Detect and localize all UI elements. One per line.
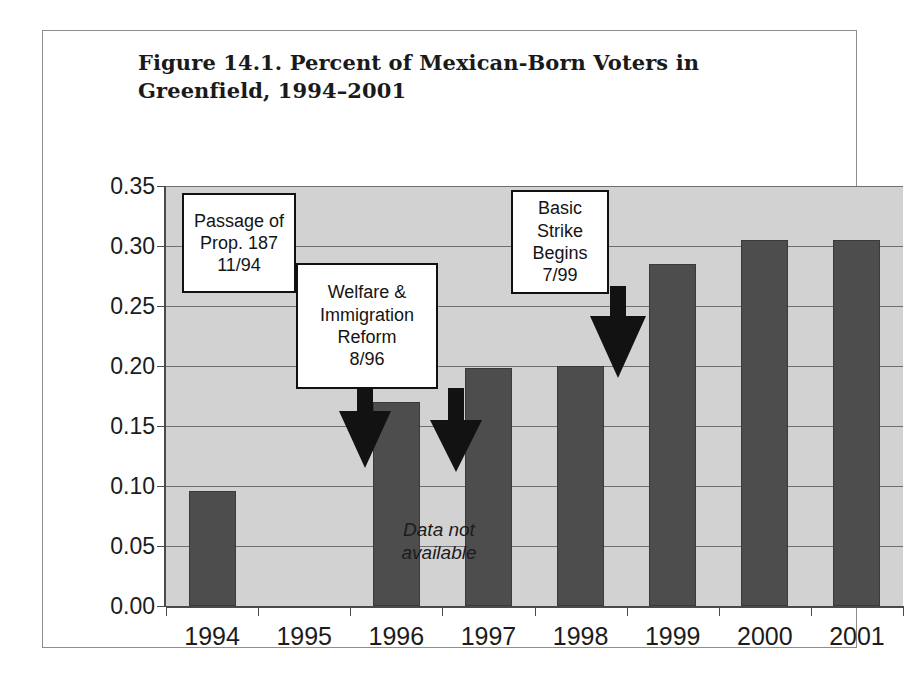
gridline (166, 186, 903, 187)
gridline (166, 606, 903, 607)
bar-1998 (557, 366, 604, 606)
figure-title-line-1: Figure 14.1. Percent of Mexican-Born Vot… (138, 49, 778, 77)
x-tick-mark (535, 606, 536, 616)
figure-title: Figure 14.1. Percent of Mexican-Born Vot… (138, 49, 778, 106)
data-not-available-line-2: available (364, 541, 514, 564)
y-tick-label: 0.10 (110, 473, 155, 500)
y-tick-mark (157, 606, 166, 607)
x-tick-label-1994: 1994 (184, 622, 240, 651)
annotation-box-basic-strike-text: Basic Strike Begins 7/99 (532, 197, 587, 286)
annotation-line: Welfare & (320, 281, 414, 303)
annotation-box-prop-187[interactable]: Passage of Prop. 187 11/94 (182, 193, 296, 293)
y-tick-mark (157, 426, 166, 427)
x-tick-mark (811, 606, 812, 616)
x-tick-mark (258, 606, 259, 616)
x-tick-label-1998: 1998 (553, 622, 609, 651)
x-tick-label-2001: 2001 (829, 622, 885, 651)
y-tick-label: 0.15 (110, 413, 155, 440)
annotation-line: Reform (320, 326, 414, 348)
y-tick-label: 0.30 (110, 233, 155, 260)
annotation-line: Prop. 187 (194, 232, 284, 254)
figure-title-line-2: Greenfield, 1994–2001 (138, 77, 778, 105)
annotation-line: Passage of (194, 210, 284, 232)
gridline (166, 306, 903, 307)
y-tick-mark (157, 546, 166, 547)
annotation-arrow-basic-strike (581, 286, 655, 386)
annotation-line: 11/94 (194, 254, 284, 276)
y-tick-label: 0.05 (110, 533, 155, 560)
annotation-line: Basic (532, 197, 587, 219)
bar-1994 (189, 491, 236, 606)
x-tick-label-2000: 2000 (737, 622, 793, 651)
x-tick-mark (166, 606, 167, 616)
bar-1999 (649, 264, 696, 606)
annotation-line: 8/96 (320, 348, 414, 370)
x-tick-mark (350, 606, 351, 616)
gridline (166, 426, 903, 427)
gridline (166, 546, 903, 547)
y-tick-mark (157, 306, 166, 307)
annotation-line: Begins (532, 242, 587, 264)
annotation-box-prop-187-text: Passage of Prop. 187 11/94 (194, 210, 284, 277)
data-not-available-line-1: Data not (364, 518, 514, 541)
y-tick-label: 0.20 (110, 353, 155, 380)
x-tick-label-1999: 1999 (645, 622, 701, 651)
x-tick-label-1995: 1995 (276, 622, 332, 651)
chart-plot-area: 0.000.050.100.150.200.250.300.35 1994199… (164, 186, 903, 606)
y-tick-mark (157, 366, 166, 367)
x-tick-mark (627, 606, 628, 616)
y-tick-label: 0.35 (110, 173, 155, 200)
y-tick-mark (157, 486, 166, 487)
gridline (166, 366, 903, 367)
bar-2001 (833, 240, 880, 606)
annotation-line: Immigration (320, 304, 414, 326)
annotation-line: 7/99 (532, 264, 587, 286)
y-tick-mark (157, 246, 166, 247)
x-tick-mark (442, 606, 443, 616)
annotation-box-welfare-immigration-reform[interactable]: Welfare & Immigration Reform 8/96 (296, 263, 438, 389)
annotation-box-welfare-immigration-reform-text: Welfare & Immigration Reform 8/96 (320, 281, 414, 370)
figure-frame: Figure 14.1. Percent of Mexican-Born Vot… (42, 30, 857, 648)
y-tick-mark (157, 186, 166, 187)
gridline (166, 486, 903, 487)
annotation-line: Strike (532, 220, 587, 242)
annotation-box-basic-strike[interactable]: Basic Strike Begins 7/99 (511, 190, 609, 294)
data-not-available-note: Data not available (364, 518, 514, 564)
y-tick-label: 0.00 (110, 593, 155, 620)
y-tick-label: 0.25 (110, 293, 155, 320)
bar-2000 (741, 240, 788, 606)
x-tick-mark (719, 606, 720, 616)
x-tick-label-1997: 1997 (461, 622, 517, 651)
annotation-arrow-welfare-immigration-reform (421, 388, 491, 478)
x-tick-label-1996: 1996 (369, 622, 425, 651)
